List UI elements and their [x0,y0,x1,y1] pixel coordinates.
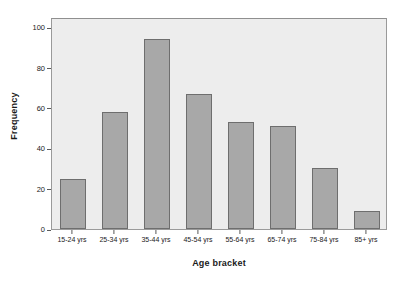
x-axis-tick-mark [324,230,325,234]
x-axis-tick-mark [156,230,157,234]
x-axis-tick-mark [114,230,115,234]
x-axis-tick-label: 65-74 yrs [267,236,296,243]
bar [270,126,296,229]
bar [60,179,86,229]
x-axis-tick: 75-84 yrs [309,230,338,243]
bar [354,211,380,229]
x-axis-tick-label: 45-54 yrs [183,236,212,243]
x-axis-tick-label: 55-64 yrs [225,236,254,243]
x-axis-tick-label: 15-24 yrs [57,236,86,243]
x-axis-tick: 65-74 yrs [267,230,296,243]
x-axis-tick-mark [240,230,241,234]
bar [144,39,170,229]
x-axis-tick-label: 75-84 yrs [309,236,338,243]
x-axis-tick: 85+ yrs [354,230,377,243]
plot-area [51,18,387,230]
y-axis-title: Frequency [6,0,22,232]
x-axis: 15-24 yrs25-34 yrs35-44 yrs45-54 yrs55-6… [51,230,387,254]
y-axis-tick-label: 40 [37,145,47,153]
y-axis-tick-label: 20 [37,186,47,194]
y-axis-tick-label: 60 [37,105,47,113]
y-axis: 020406080100 [22,18,51,232]
bar [312,168,338,229]
x-axis-tick-label: 85+ yrs [354,236,377,243]
x-axis-tick: 25-34 yrs [99,230,128,243]
y-axis-title-label: Frequency [9,92,19,139]
bar [186,94,212,229]
x-axis-tick: 35-44 yrs [141,230,170,243]
bars-layer [52,19,386,229]
x-axis-tick-mark [72,230,73,234]
y-axis-tick-label: 80 [37,65,47,73]
x-axis-tick-mark [366,230,367,234]
y-axis-tick-label: 100 [32,24,47,32]
x-axis-tick-label: 35-44 yrs [141,236,170,243]
x-axis-title: Age bracket [51,258,387,268]
bar [102,112,128,229]
x-axis-tick-mark [282,230,283,234]
x-axis-tick: 55-64 yrs [225,230,254,243]
x-axis-tick: 15-24 yrs [57,230,86,243]
bar [228,122,254,229]
x-axis-tick-label: 25-34 yrs [99,236,128,243]
x-axis-tick-mark [198,230,199,234]
histogram-chart: Frequency 020406080100 15-24 yrs25-34 yr… [0,0,400,283]
x-axis-tick: 45-54 yrs [183,230,212,243]
